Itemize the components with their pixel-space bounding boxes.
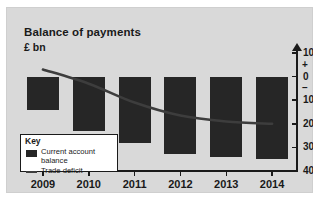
bar-2012 [164,77,196,155]
x-axis-label-2009: 2009 [31,178,55,190]
y-tick-40 [292,170,298,172]
x-axis-label-2014: 2014 [260,178,284,190]
y-tick-10 [292,52,298,54]
y-tick-10 [292,99,298,101]
bar-2009 [27,77,59,110]
bar-2013 [210,77,242,157]
chart-title: Balance of payments [24,25,141,39]
chart-subtitle-units: £ bn [24,40,141,54]
y-tick-20 [292,123,298,125]
x-axis-label-2010: 2010 [77,178,101,190]
y-tick-label-40: 40 [303,166,313,176]
x-tick-2013 [226,170,228,176]
bar-2014 [256,77,288,160]
y-tick-label-10: 10 [303,95,313,105]
legend-key-box: Key Current account balance Trade defici… [20,134,118,172]
y-axis-sign-minus: – [302,83,308,93]
legend-title: Key [25,137,113,147]
x-tick-2012 [180,170,182,176]
legend-label-trade-deficit: Trade deficit [41,167,83,176]
y-tick-label-0: 0 [303,72,309,82]
y-tick-30 [292,147,298,149]
x-tick-2014 [271,170,273,176]
legend-item-current-account: Current account balance [25,148,113,165]
x-axis-label-2011: 2011 [123,178,147,190]
y-tick-0 [292,76,298,78]
chart-figure: Balance of payments £ bn 10010203040+– 2… [6,7,313,193]
legend-item-trade-deficit: Trade deficit [25,167,113,176]
y-tick-label-30: 30 [303,142,313,152]
y-tick-label-10: 10 [303,48,313,58]
x-tick-2011 [134,170,136,176]
y-axis-line [296,50,298,171]
bar-swatch-icon [26,150,37,157]
title-block: Balance of payments £ bn [24,25,141,54]
bar-2010 [73,77,105,131]
line-swatch-icon [26,171,37,173]
legend-label-current-account: Current account balance [41,148,113,165]
bar-2011 [119,77,151,143]
y-tick-label-20: 20 [303,119,313,129]
y-axis-sign-plus: + [302,60,308,70]
x-axis-label-2013: 2013 [214,178,238,190]
x-axis-label-2012: 2012 [168,178,192,190]
